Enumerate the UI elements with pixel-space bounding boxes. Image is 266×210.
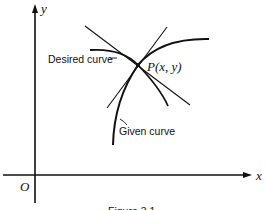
desired-curve-label: Desired curve xyxy=(48,53,113,65)
figure-caption: Figure 3.1 xyxy=(108,205,155,210)
point-label: P(x, y) xyxy=(146,59,182,74)
point-p xyxy=(136,63,140,67)
given-curve-label: Given curve xyxy=(119,125,175,137)
origin-label: O xyxy=(20,179,30,194)
x-axis-arrow-icon xyxy=(243,172,252,178)
x-axis-label: x xyxy=(255,168,262,183)
diagram: y x O P(x, y) Desired curve Given curve … xyxy=(0,0,266,210)
y-axis-label: y xyxy=(39,1,47,16)
y-axis-arrow-icon xyxy=(32,4,38,13)
